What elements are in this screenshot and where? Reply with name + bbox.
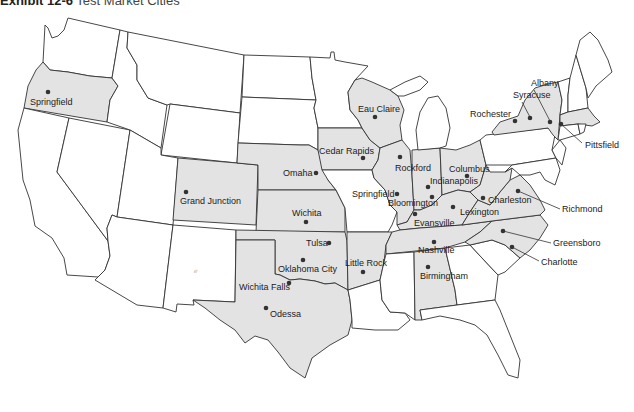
city-dot-icon <box>373 115 378 120</box>
city-label: Omaha <box>283 168 313 178</box>
us-map: SpringfieldGrand JunctionOmahaWichitaTul… <box>0 0 634 412</box>
city-label: Wichita Falls <box>239 282 291 292</box>
city-dot-icon <box>264 306 269 311</box>
city-label: Indianapolis <box>430 176 479 186</box>
city-label: Lexington <box>460 207 499 217</box>
city-label: Bloomington <box>388 198 438 208</box>
state-washington <box>43 18 120 78</box>
city-label: Cedar Rapids <box>319 146 375 156</box>
city-marker: Tulsa <box>306 238 331 248</box>
city-dot-icon <box>528 116 533 121</box>
state-south-dakota <box>238 97 318 150</box>
city-label: Charleston <box>488 195 532 205</box>
city-dot-icon <box>516 189 521 194</box>
state-wyoming <box>161 104 240 163</box>
state-connecticut <box>558 124 580 140</box>
city-dot-icon <box>361 270 366 275</box>
city-dot-icon <box>432 240 437 245</box>
city-label: Greensboro <box>553 238 601 248</box>
city-dot-icon <box>465 174 470 179</box>
map-artifact: ℯ <box>194 268 198 274</box>
city-dot-icon <box>413 212 418 217</box>
city-label: Tulsa <box>306 238 328 248</box>
city-dot-icon <box>426 265 431 270</box>
city-dot-icon <box>513 119 518 124</box>
city-label: Grand Junction <box>180 196 241 206</box>
city-dot-icon <box>46 90 51 95</box>
city-dot-icon <box>548 120 553 125</box>
city-label: Little Rock <box>345 258 388 268</box>
city-dot-icon <box>510 245 515 250</box>
city-label: Rochester <box>470 109 511 119</box>
state-new-mexico <box>163 225 236 312</box>
city-label: Evansville <box>414 218 455 228</box>
city-label: Richmond <box>562 204 603 214</box>
city-label: Charlotte <box>541 257 578 267</box>
city-dot-icon <box>314 171 319 176</box>
city-label: Nashville <box>418 245 455 255</box>
city-dot-icon <box>184 190 189 195</box>
city-label: Oklahoma City <box>278 264 338 274</box>
city-dot-icon <box>301 258 306 263</box>
city-dot-icon <box>398 155 403 160</box>
city-label: Syracuse <box>513 90 551 100</box>
state-florida <box>420 300 520 378</box>
city-label: Springfield <box>30 97 73 107</box>
city-label: Pittsfield <box>585 140 619 150</box>
city-label: Columbus <box>449 164 490 174</box>
city-dot-icon <box>481 196 486 201</box>
city-label: Wichita <box>292 208 322 218</box>
state-north-dakota <box>242 55 316 100</box>
city-dot-icon <box>451 205 456 210</box>
city-label: Odessa <box>270 309 301 319</box>
city-label: Rockford <box>395 163 431 173</box>
city-label: Albany <box>531 78 559 88</box>
city-dot-icon <box>304 220 309 225</box>
city-dot-icon <box>559 122 564 127</box>
city-label: Birmingham <box>420 271 468 281</box>
city-marker: Charleston <box>481 195 532 205</box>
city-dot-icon <box>501 229 506 234</box>
city-dot-icon <box>361 156 366 161</box>
city-marker: Wichita Falls <box>239 281 291 292</box>
city-label: Eau Claire <box>358 104 400 114</box>
city-dot-icon <box>395 192 400 197</box>
